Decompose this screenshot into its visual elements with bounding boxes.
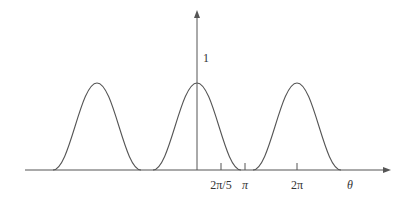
curve-bump-left <box>53 83 141 170</box>
tick-label-2pi-over-5: 2π/5 <box>210 178 231 192</box>
y-axis-arrow-icon <box>194 10 200 18</box>
bump-function-plot: 1 2π/5 π 2π θ <box>0 0 413 197</box>
curve-bump-right <box>253 83 341 170</box>
tick-label-pi: π <box>242 178 249 192</box>
y-value-label: 1 <box>203 51 209 65</box>
tick-label-2pi: 2π <box>291 178 303 192</box>
x-axis-arrow-icon <box>383 167 391 173</box>
x-axis-label-theta: θ <box>347 178 353 192</box>
